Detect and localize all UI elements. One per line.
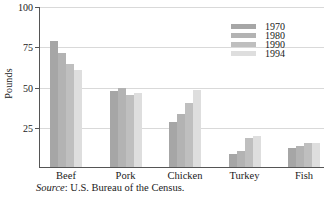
source-body: : U.S. Bureau of the Census. [65,182,185,193]
bar [185,103,193,167]
y-tick-label: 25 [23,122,33,133]
x-axis-category-label: Chicken [168,170,203,181]
bar-group [50,7,82,167]
y-tick-mark [35,7,39,8]
x-axis-category-label: Beef [56,170,76,181]
source-label: Source [36,182,65,193]
legend-item[interactable]: 1994 [231,49,285,58]
bar [312,143,320,167]
y-tick-mark [35,88,39,89]
bar-group [110,7,142,167]
y-axis-label: Pounds [3,54,14,114]
source-note: Source: U.S. Bureau of the Census. [36,182,184,193]
bar [296,146,304,167]
bar [193,90,201,167]
bar [74,70,82,167]
y-tick-label: 75 [23,42,33,53]
bar [304,143,312,167]
bar [110,91,118,167]
bar [169,122,177,167]
bar-group [169,7,201,167]
bar [229,154,237,167]
legend-swatch [231,51,256,56]
y-tick-mark [35,128,39,129]
bar-group [288,7,320,167]
bar [58,53,66,167]
x-axis-category-label: Fish [295,170,313,181]
bar [134,93,142,167]
x-axis-category-label: Turkey [230,170,260,181]
legend-label: 1994 [265,49,285,58]
legend: 1970198019901994 [231,22,285,58]
legend-swatch [231,24,256,29]
y-tick-mark [35,47,39,48]
y-tick-label: 50 [23,82,33,93]
bar [118,88,126,167]
bar [126,95,134,167]
bar [66,64,74,167]
bar [245,138,253,167]
bar [177,114,185,167]
bar [253,136,261,167]
bar [288,148,296,167]
legend-swatch [231,33,256,38]
x-axis-category-label: Pork [116,170,136,181]
bar [237,151,245,167]
x-axis-line [39,167,324,168]
bar [50,41,58,167]
bar-chart: Pounds 255075100 BeefPorkChickenTurkeyFi… [0,0,327,198]
y-tick-label: 100 [18,2,33,13]
legend-swatch [231,42,256,47]
